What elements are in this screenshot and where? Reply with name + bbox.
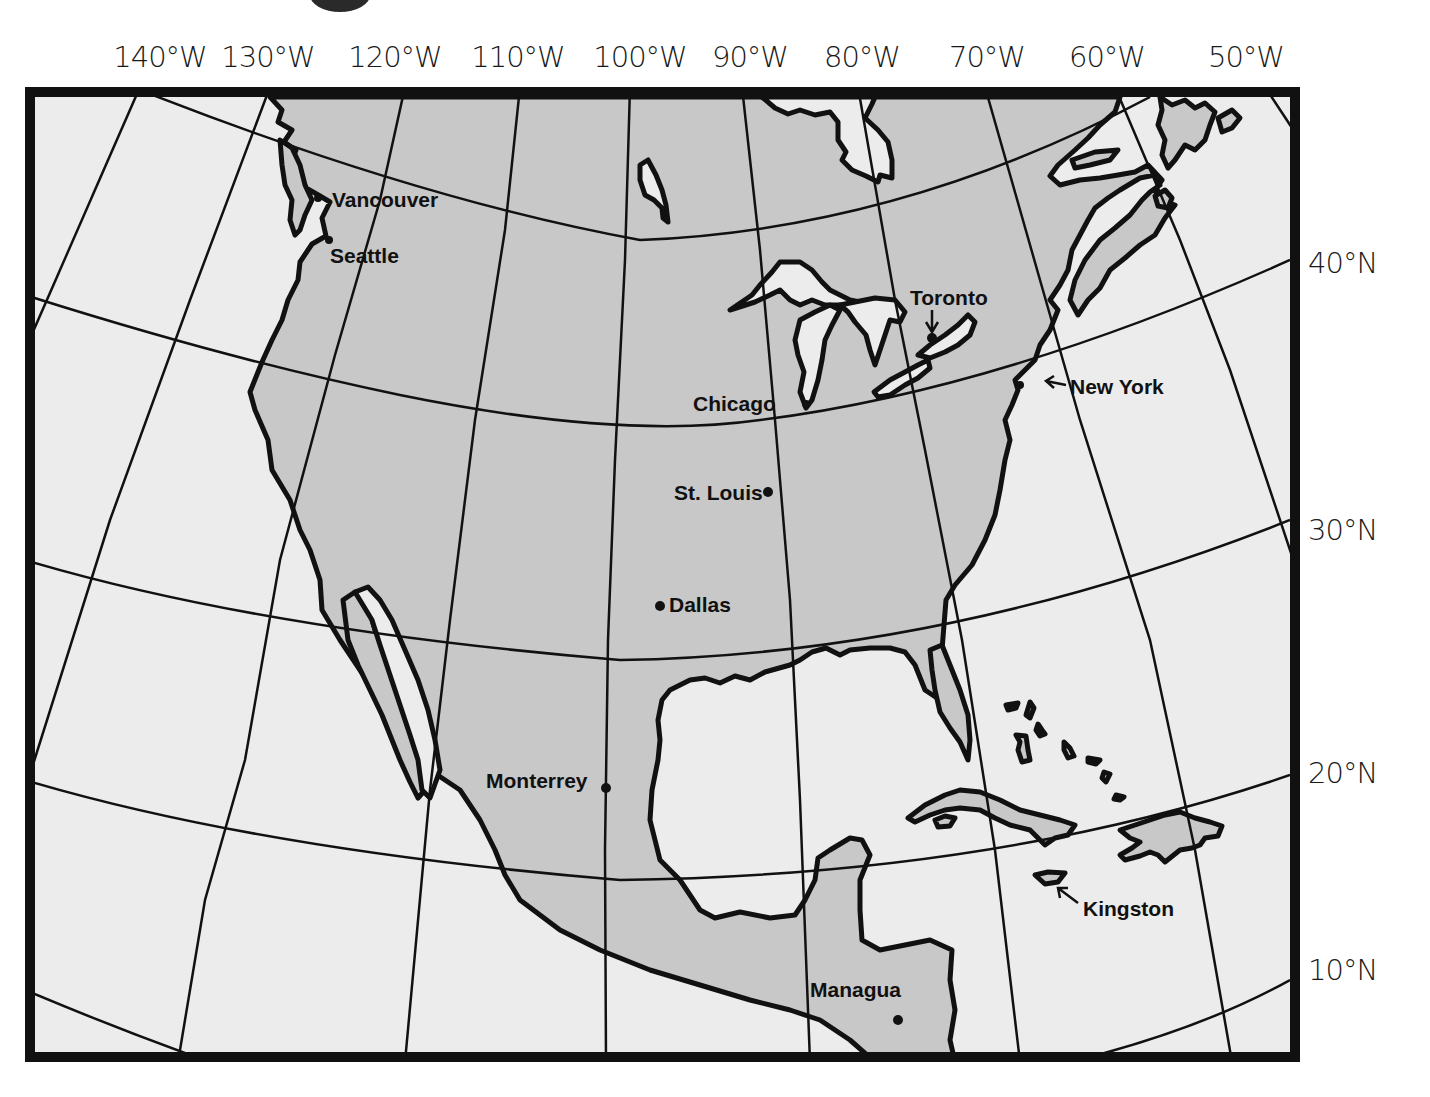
city-dot-managua xyxy=(893,1015,903,1025)
city-label-vancouver: Vancouver xyxy=(332,189,438,210)
lon-label-110w: 110°W xyxy=(471,40,565,74)
bahamas-island-8 xyxy=(1114,795,1124,800)
lat-label-10n: 10°N xyxy=(1308,953,1377,987)
city-label-chicago: Chicago xyxy=(693,393,776,414)
meridian-140w xyxy=(25,87,140,350)
lon-label-130w: 130°W xyxy=(221,40,315,74)
bahamas-island-7 xyxy=(1102,772,1110,782)
jamaica xyxy=(1035,872,1065,884)
bahamas-island-4 xyxy=(1016,735,1030,762)
city-label-managua: Managua xyxy=(810,979,901,1000)
lon-label-50w: 50°W xyxy=(1208,40,1284,74)
bahamas-island-2 xyxy=(1026,702,1034,718)
city-label-seattle: Seattle xyxy=(330,245,399,266)
city-label-kingston: Kingston xyxy=(1083,898,1174,919)
new-york-arrow-icon xyxy=(1046,376,1066,388)
lon-label-120w: 120°W xyxy=(348,40,442,74)
bahamas-island-3 xyxy=(1036,724,1045,736)
city-dot-vancouver xyxy=(314,194,322,202)
bahamas-island-5 xyxy=(1064,742,1074,758)
city-dot-dallas xyxy=(655,601,665,611)
anticosti-island xyxy=(1072,150,1118,168)
lon-label-60w: 60°W xyxy=(1069,40,1145,74)
cuba xyxy=(908,790,1075,845)
lat-label-30n: 30°N xyxy=(1308,513,1377,547)
meridian-130w xyxy=(25,87,270,790)
lon-label-140w: 140°W xyxy=(113,40,207,74)
bahamas-island-6 xyxy=(1088,758,1100,764)
city-label-dallas: Dallas xyxy=(669,594,731,615)
city-label-toronto: Toronto xyxy=(910,287,988,308)
meridian-50w xyxy=(1265,87,1300,140)
parallel-10n xyxy=(25,990,210,1062)
lon-label-70w: 70°W xyxy=(949,40,1025,74)
city-dot-st-louis xyxy=(763,487,773,497)
lat-label-20n: 20°N xyxy=(1308,756,1377,790)
newfoundland xyxy=(1158,97,1215,168)
lon-label-80w: 80°W xyxy=(824,40,900,74)
city-label-monterrey: Monterrey xyxy=(486,770,588,791)
decorative-title-mark xyxy=(310,0,370,12)
kingston-arrow-icon xyxy=(1058,888,1078,903)
bahamas-island-1 xyxy=(1006,703,1018,710)
lon-label-90w: 90°W xyxy=(712,40,788,74)
city-dot-new-york xyxy=(1016,381,1024,389)
meridian-60w xyxy=(1115,87,1300,580)
city-dot-toronto xyxy=(927,333,937,343)
lon-label-100w: 100°W xyxy=(593,40,687,74)
florida-peninsula xyxy=(930,645,970,760)
isle-of-youth xyxy=(935,816,955,827)
city-dot-chicago xyxy=(802,400,810,408)
city-label-new-york: New York xyxy=(1070,376,1164,397)
lat-label-40n: 40°N xyxy=(1308,246,1377,280)
parallel-10n-east xyxy=(1070,980,1290,1062)
prince-edward-island xyxy=(1218,110,1240,132)
city-label-st-louis: St. Louis xyxy=(674,482,763,503)
north-america-landmass xyxy=(250,97,1175,1062)
city-dot-monterrey xyxy=(601,783,611,793)
city-dot-seattle xyxy=(325,236,333,244)
